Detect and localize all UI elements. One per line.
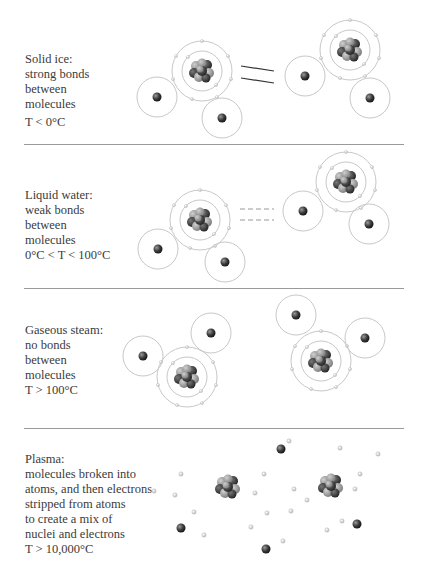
solid-molecule-left xyxy=(137,39,242,138)
gas-molecule-right xyxy=(276,295,385,391)
liquid-molecule-right xyxy=(283,150,389,244)
liquid-molecule-left xyxy=(138,188,245,282)
weak-bond-dashes xyxy=(240,209,274,220)
plasma-nuclei xyxy=(215,474,343,499)
gas-molecule-left xyxy=(123,313,231,407)
solid-molecule-right xyxy=(285,18,390,118)
states-of-matter-illustration xyxy=(0,0,424,581)
plasma-free-electrons xyxy=(152,439,380,543)
strong-bond-lines xyxy=(241,66,274,83)
